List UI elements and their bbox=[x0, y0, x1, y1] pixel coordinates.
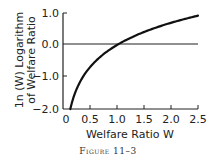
y-tick-label: −1.0 bbox=[32, 70, 59, 83]
x-tick-label: 0.5 bbox=[81, 113, 99, 126]
x-tick-label: 0 bbox=[63, 113, 70, 126]
x-tick-label: 1.5 bbox=[135, 113, 153, 126]
y-axis-title-line2: of Welfare Ratio bbox=[25, 16, 38, 104]
y-tick-label: 0.0 bbox=[42, 38, 60, 51]
x-axis-title: Welfare Ratio W bbox=[86, 128, 174, 141]
x-tick-label: 2.0 bbox=[162, 113, 180, 126]
chart: 1n (W) Logarithm of Welfare Ratio 1.0 0.… bbox=[0, 0, 216, 164]
figure-caption: Figure 11–3 bbox=[0, 146, 216, 156]
y-tick-label: 1.0 bbox=[42, 7, 60, 20]
x-tick-labels: 0 0.5 1.0 1.5 2.0 2.5 bbox=[63, 113, 207, 126]
x-tick-label: 1.0 bbox=[108, 113, 126, 126]
y-tick-label: −2.0 bbox=[32, 103, 59, 116]
x-tick-label: 2.5 bbox=[189, 113, 207, 126]
ln-w-curve bbox=[70, 16, 198, 109]
